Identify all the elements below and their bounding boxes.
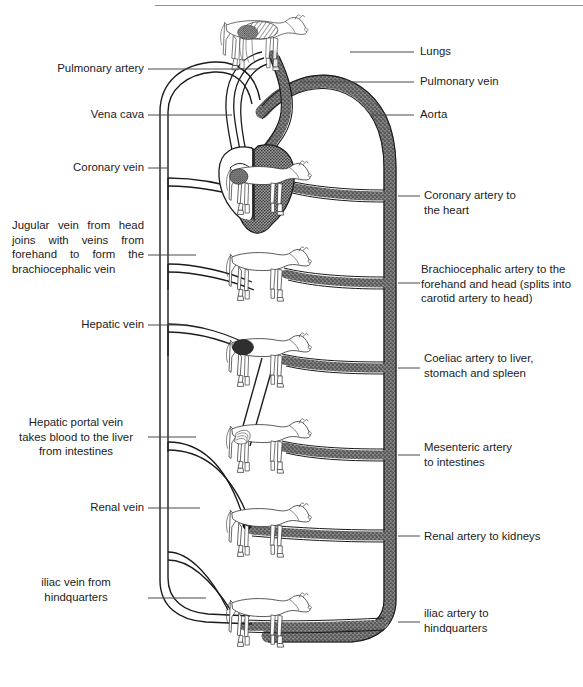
label-hepatic-portal-vein: Hepatic portal vein takes blood to the l… [8, 415, 144, 459]
label-pulmonary-artery: Pulmonary artery [10, 61, 144, 76]
label-mesenteric-artery: Mesenteric artery to intestines [424, 440, 580, 469]
label-coronary-vein: Coronary vein [10, 160, 144, 175]
label-brachiocephalic-artery: Brachiocephalic artery to the forehand a… [421, 262, 583, 306]
label-pulmonary-vein: Pulmonary vein [420, 74, 578, 89]
label-coeliac-artery: Coeliac artery to liver, stomach and spl… [424, 351, 580, 380]
label-hepatic-vein: Hepatic vein [10, 317, 144, 332]
label-coronary-artery: Coronary artery to the heart [424, 188, 580, 217]
label-iliac-vein: iliac vein from hindquarters [8, 575, 144, 604]
label-vena-cava: Vena cava [10, 107, 144, 122]
label-jugular-vein: Jugular vein from head joins with veins … [12, 218, 144, 276]
label-aorta: Aorta [420, 107, 578, 122]
label-renal-artery: Renal artery to kidneys [424, 529, 580, 544]
label-lungs: Lungs [420, 44, 578, 59]
lung-horse-figure [221, 15, 308, 71]
label-renal-vein: Renal vein [10, 500, 144, 515]
diagram-page: Pulmonary artery Vena cava Coronary vein… [0, 0, 583, 687]
label-iliac-artery: iliac artery to hindquarters [424, 606, 580, 635]
